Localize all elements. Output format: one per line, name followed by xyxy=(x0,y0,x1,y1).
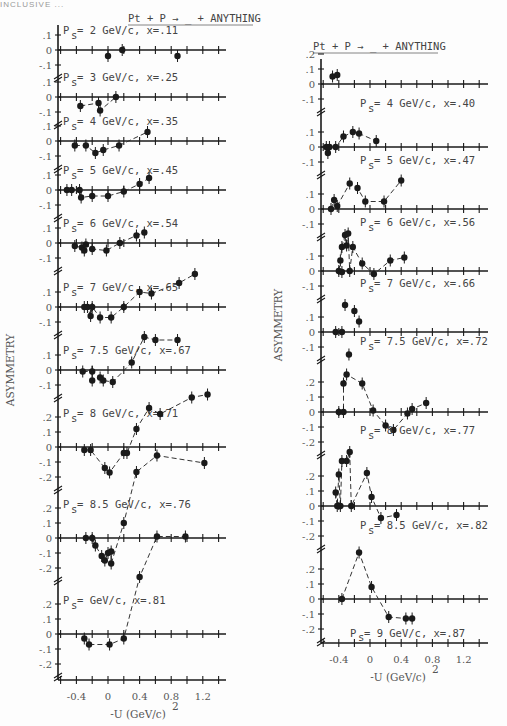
data-point xyxy=(102,557,108,563)
data-point xyxy=(176,280,182,286)
data-point xyxy=(393,512,399,518)
data-point xyxy=(77,103,83,109)
data-point xyxy=(174,337,180,343)
data-point xyxy=(113,94,119,100)
row-7.5: .10-.1Ps= 7.5 GeV/c, x=.67 xyxy=(39,331,226,402)
x-axis-label: -U (GeV/c) xyxy=(110,708,166,720)
data-point xyxy=(343,242,349,248)
data-point xyxy=(403,615,409,621)
data-point xyxy=(328,206,334,212)
data-point xyxy=(87,447,93,453)
data-point xyxy=(121,520,127,526)
data-point xyxy=(136,574,142,580)
data-point xyxy=(108,314,114,320)
data-point xyxy=(89,377,95,383)
data-point xyxy=(343,371,349,377)
x-tick-label: 1.2 xyxy=(195,691,211,702)
data-point xyxy=(133,232,139,238)
right-chart: Pt + P → _ + ANYTHINGASYMMETRY.2.10-.1.1… xyxy=(272,40,488,683)
y-tick-label: -.1 xyxy=(302,342,315,353)
data-point xyxy=(346,351,352,357)
row-label: P xyxy=(63,217,69,229)
y-tick-label: -.2 xyxy=(302,531,315,542)
row-7: .10-.1Ps= 7 GeV/c, x=.66 xyxy=(302,266,488,364)
data-point xyxy=(340,380,346,386)
y-tick-label: 0 xyxy=(46,365,52,376)
data-point xyxy=(81,635,87,641)
x-tick-label: 0 xyxy=(105,691,111,702)
y-tick-label: -.1 xyxy=(39,317,52,328)
data-point xyxy=(154,452,160,458)
svg-text:= 3 GeV/c, x=.25: = 3 GeV/c, x=.25 xyxy=(77,71,178,83)
data-point xyxy=(144,129,150,135)
y-tick-label: -.1 xyxy=(39,644,52,655)
data-point xyxy=(133,469,139,475)
row-label: P xyxy=(360,424,366,436)
data-point xyxy=(87,313,93,319)
row-6: .10-.1Ps= 6 GeV/c, x=.56 xyxy=(302,216,488,303)
y-tick-label: .1 xyxy=(305,189,315,200)
data-point xyxy=(386,614,392,620)
y-tick-label: 0 xyxy=(309,142,315,153)
data-point xyxy=(121,635,127,641)
data-point xyxy=(339,329,345,335)
data-point xyxy=(404,410,410,416)
data-point xyxy=(80,368,86,374)
svg-text:= 4 GeV/c, x=.40: = 4 GeV/c, x=.40 xyxy=(374,97,475,109)
y-tick-label: -.1 xyxy=(302,516,315,527)
row-8: .2.10-.1-.2Ps= 8 GeV/c, x=.77 xyxy=(302,424,488,553)
row-label: P xyxy=(360,335,366,347)
row-blank: .2.10-.1-.2Ps= GeV/c, x=.81 xyxy=(39,531,226,682)
y-tick-label: -.2 xyxy=(39,472,52,483)
data-point xyxy=(342,302,348,308)
y-tick-label: -.2 xyxy=(39,563,52,574)
data-point xyxy=(348,503,354,509)
data-point xyxy=(89,246,95,252)
data-point xyxy=(340,409,346,415)
y-tick-label: .1 xyxy=(42,30,52,41)
row-label: P xyxy=(63,281,69,293)
data-point xyxy=(373,138,379,144)
y-tick-label: -.1 xyxy=(39,548,52,559)
data-point xyxy=(76,187,82,193)
data-point xyxy=(108,548,114,554)
data-point xyxy=(409,406,415,412)
data-point xyxy=(72,142,78,148)
data-point xyxy=(105,53,111,59)
x-tick-label: 0 xyxy=(367,654,373,665)
y-tick-label: .1 xyxy=(305,392,315,403)
fit-curve xyxy=(331,181,401,210)
data-point xyxy=(370,407,376,413)
y-tick-label: -.1 xyxy=(302,609,315,620)
data-point xyxy=(97,107,103,113)
data-point xyxy=(401,254,407,260)
data-point xyxy=(332,144,338,150)
x-tick-label: -0.4 xyxy=(329,654,348,665)
svg-text:= 6 GeV/c, x=.54: = 6 GeV/c, x=.54 xyxy=(77,217,178,229)
data-point xyxy=(359,380,365,386)
data-point xyxy=(398,177,404,183)
data-point xyxy=(89,368,95,374)
y-tick-label: .1 xyxy=(42,518,52,529)
y-tick-label: 0 xyxy=(309,327,315,338)
asymmetry-figure: Pt + P → _ + ANYTHINGASYMMETRY.10-.1Ps= … xyxy=(0,0,507,726)
y-tick-label: .1 xyxy=(42,350,52,361)
data-point xyxy=(121,188,127,194)
data-point xyxy=(108,560,114,566)
left-chart: Pt + P → _ + ANYTHINGASYMMETRY.10-.1Ps= … xyxy=(4,12,261,720)
row-label: P xyxy=(63,24,69,36)
fit-curve xyxy=(84,537,185,645)
data-point xyxy=(337,257,343,263)
fit-curve xyxy=(342,553,412,619)
svg-text:= 5 GeV/c, x=.45: = 5 GeV/c, x=.45 xyxy=(77,164,178,176)
row-5: .10-.1Ps= 5 GeV/c, x=.45 xyxy=(39,164,226,222)
data-point xyxy=(81,247,87,253)
y-tick-label: 0 xyxy=(46,629,52,640)
svg-text:= 5 GeV/c, x=.47: = 5 GeV/c, x=.47 xyxy=(374,154,475,166)
row-8.5: .2.10-.1-.2Ps= 8.5 GeV/c, x=.76 xyxy=(39,450,226,586)
y-tick-label: .1 xyxy=(305,251,315,262)
y-tick-label: .1 xyxy=(42,614,52,625)
data-point xyxy=(133,426,139,432)
svg-text:= 2 GeV/c, x=.11: = 2 GeV/c, x=.11 xyxy=(77,24,178,36)
data-point xyxy=(356,549,362,555)
